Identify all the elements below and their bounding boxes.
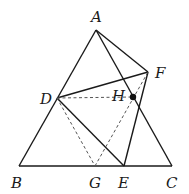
label-H: H bbox=[111, 87, 126, 105]
dashed-lines bbox=[57, 72, 148, 166]
label-G: G bbox=[89, 174, 101, 192]
label-E: E bbox=[117, 174, 129, 192]
label-A: A bbox=[89, 8, 102, 26]
geometry-diagram: A F D H B G E C bbox=[0, 0, 189, 194]
segment-AF bbox=[96, 30, 148, 72]
label-C: C bbox=[166, 174, 178, 192]
label-F: F bbox=[154, 64, 166, 82]
label-B: B bbox=[10, 174, 22, 192]
point-H-dot bbox=[130, 94, 136, 100]
segment-DG bbox=[57, 98, 95, 166]
label-D: D bbox=[39, 90, 52, 108]
